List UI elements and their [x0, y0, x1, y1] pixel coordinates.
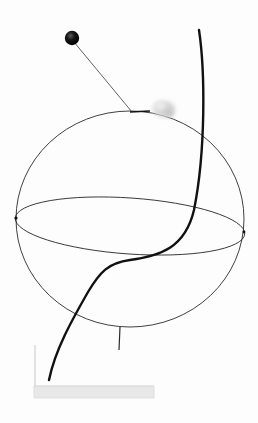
s-curve-rod	[49, 30, 203, 380]
ball-wire	[74, 42, 132, 112]
sphere-wire	[16, 111, 244, 327]
equator-ring	[13, 190, 246, 262]
white-tuft	[153, 101, 175, 117]
stem	[119, 327, 120, 350]
sculpture-photo: Wire sculpture: a thin wire sphere with …	[0, 0, 258, 423]
sculpture-drawing	[0, 0, 258, 423]
black-ball	[65, 31, 79, 45]
